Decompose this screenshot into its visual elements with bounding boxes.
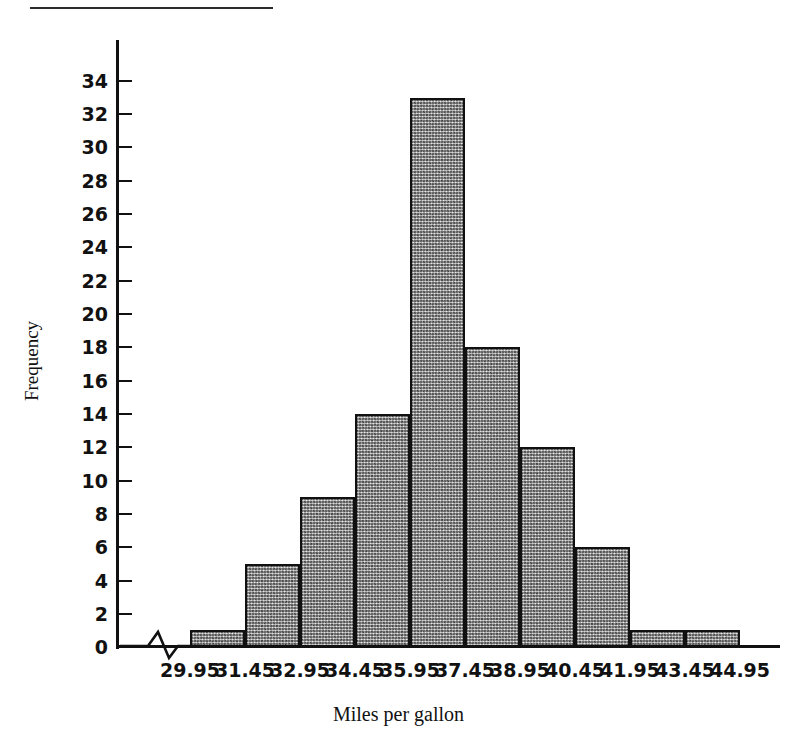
histogram-chart: 34 32 30 28 26 24 22 20 18 16 14 12 10 8… [0, 0, 797, 748]
y-tick-16 [119, 380, 132, 382]
y-tick-label-26: 26 [64, 205, 108, 224]
y-tick-26 [119, 213, 132, 215]
bar-31.45 [245, 564, 300, 647]
x-axis-title: Miles per gallon [0, 703, 797, 726]
y-tick-label-22: 22 [64, 272, 108, 291]
bar-38.95 [520, 447, 575, 647]
y-tick-6 [119, 546, 132, 548]
y-tick-label-18: 18 [64, 338, 108, 357]
y-tick-12 [119, 446, 132, 448]
y-tick-4 [119, 580, 132, 582]
y-tick-label-12: 12 [64, 438, 108, 457]
y-tick-label-0: 0 [64, 638, 108, 657]
y-tick-label-24: 24 [64, 238, 108, 257]
bar-43.45 [685, 630, 740, 647]
axis-break-icon [120, 628, 200, 662]
y-tick-30 [119, 146, 132, 148]
y-tick-label-16: 16 [64, 372, 108, 391]
y-tick-14 [119, 413, 132, 415]
y-tick-2 [119, 613, 132, 615]
y-tick-10 [119, 480, 132, 482]
y-tick-8 [119, 513, 132, 515]
y-tick-label-20: 20 [64, 305, 108, 324]
y-tick-18 [119, 346, 132, 348]
y-tick-label-30: 30 [64, 138, 108, 157]
y-tick-label-14: 14 [64, 405, 108, 424]
y-tick-32 [119, 113, 132, 115]
bar-35.95 [410, 98, 465, 647]
y-tick-22 [119, 280, 132, 282]
y-tick-label-28: 28 [64, 172, 108, 191]
y-tick-label-4: 4 [64, 572, 108, 591]
y-axis-title: Frequency [21, 301, 43, 421]
bar-34.45 [355, 414, 410, 647]
bar-41.95 [630, 630, 685, 647]
y-tick-label-8: 8 [64, 505, 108, 524]
y-tick-label-10: 10 [64, 472, 108, 491]
x-tick-label-44.95: 44.95 [702, 659, 778, 681]
y-tick-20 [119, 313, 132, 315]
y-tick-label-34: 34 [64, 72, 108, 91]
y-tick-28 [119, 180, 132, 182]
bar-40.45 [575, 547, 630, 647]
bar-37.45 [465, 347, 520, 647]
y-tick-24 [119, 246, 132, 248]
y-axis-line [116, 40, 119, 649]
y-tick-label-2: 2 [64, 605, 108, 624]
bar-32.95 [300, 497, 355, 647]
y-tick-34 [119, 80, 132, 82]
y-tick-label-32: 32 [64, 105, 108, 124]
y-tick-label-6: 6 [64, 538, 108, 557]
